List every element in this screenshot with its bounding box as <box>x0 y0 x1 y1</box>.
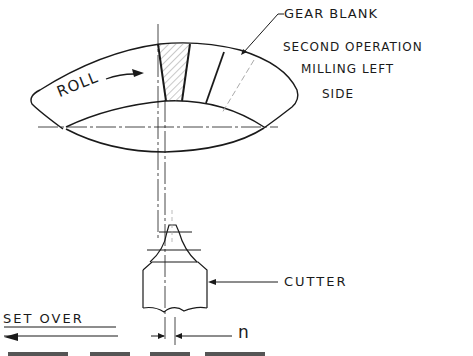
operation-label-line2: MILLING LEFT <box>301 63 394 75</box>
operation-label-line3: SIDE <box>322 88 354 100</box>
roll-arrow-icon <box>106 69 144 79</box>
cutter <box>143 210 207 312</box>
centerlines <box>38 24 278 345</box>
gear-blank-label: GEAR BLANK <box>284 7 378 20</box>
set-over-label: SET OVER <box>3 312 84 325</box>
set-over-arrow-icon <box>4 327 118 341</box>
gear-blank-leader <box>241 14 284 55</box>
cutter-leader <box>208 279 278 285</box>
gear-milling-diagram: GEAR BLANK SECOND OPERATION MILLING LEFT… <box>0 0 473 356</box>
n-dimension <box>151 333 232 339</box>
n-label: n <box>238 324 250 341</box>
operation-label-line1: SECOND OPERATION <box>283 41 423 53</box>
cutter-label: CUTTER <box>284 275 348 288</box>
cropped-caption-fragment <box>8 352 265 356</box>
